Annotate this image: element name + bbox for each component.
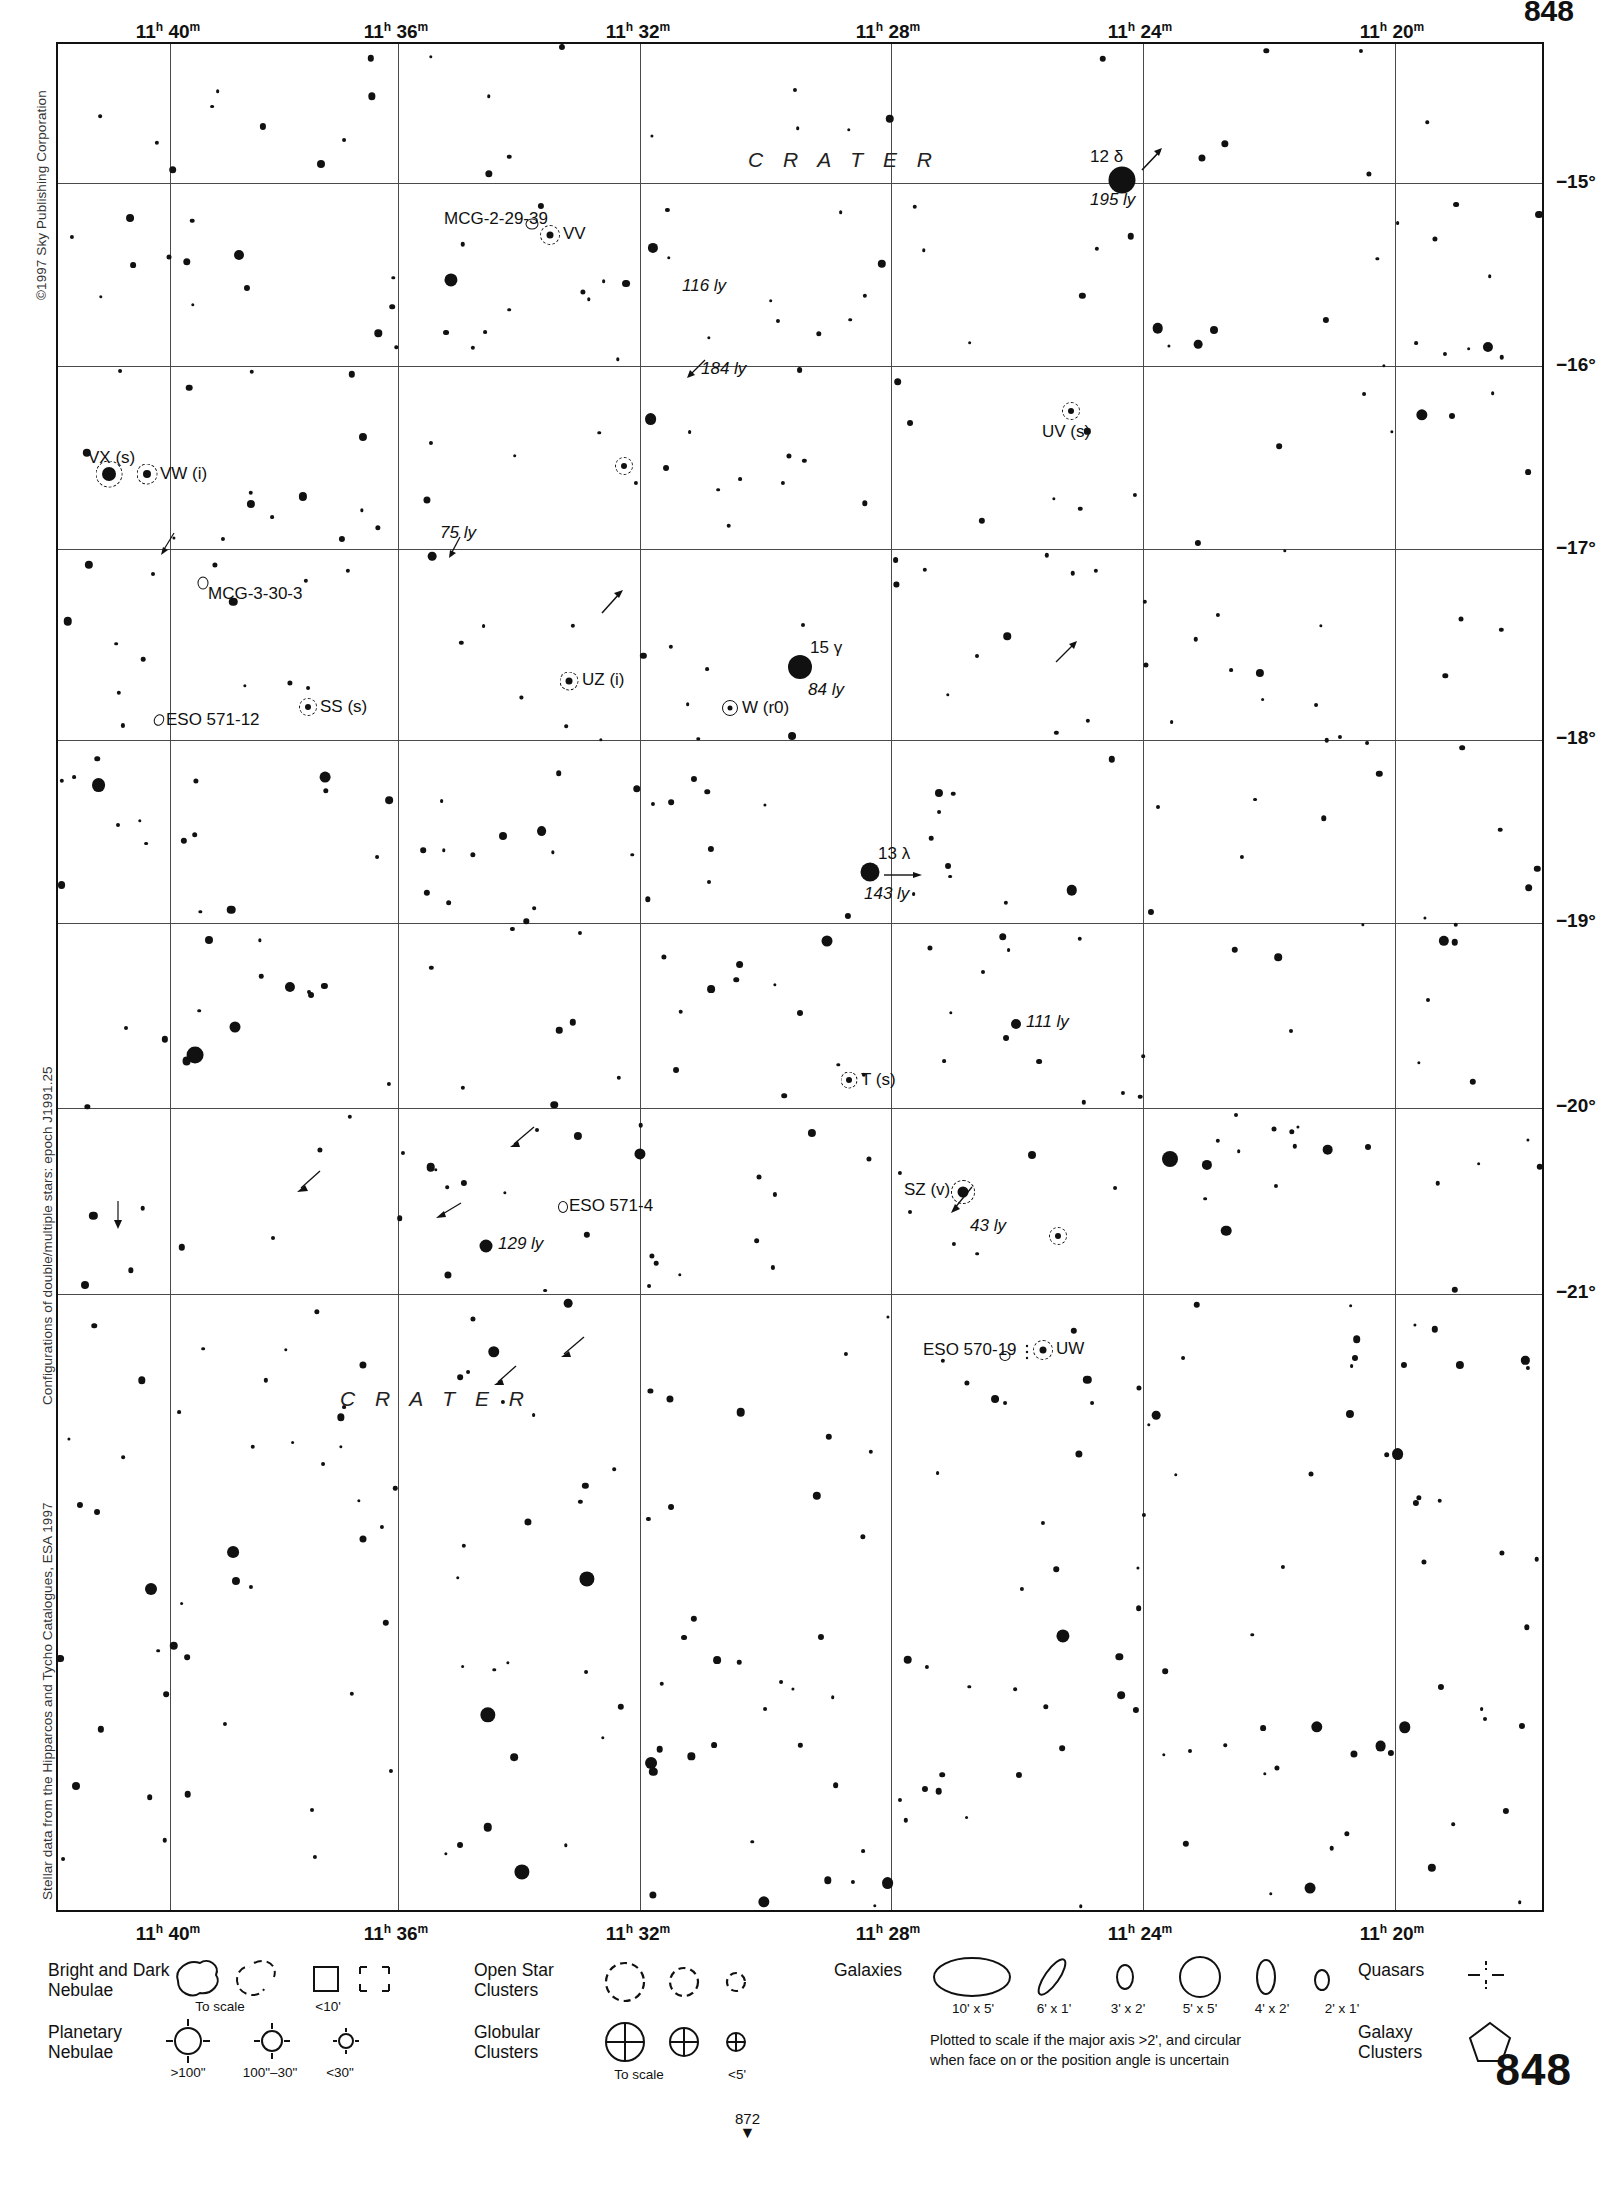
star-point (1426, 998, 1430, 1002)
star-point (556, 1027, 563, 1034)
sky-map-area[interactable]: C R A T E R C R A T E R 12 δ 195 ly MCG-… (56, 42, 1544, 1912)
star-point (124, 1026, 128, 1030)
star-point (945, 863, 951, 869)
star-point (707, 336, 710, 339)
star-point (1438, 1684, 1444, 1690)
star-unlabeled-2[interactable] (1055, 1233, 1061, 1239)
star-point (179, 1244, 185, 1250)
star-uz[interactable] (566, 678, 573, 685)
star-13-lambda[interactable] (861, 863, 880, 882)
star-t[interactable] (846, 1077, 852, 1083)
star-point (199, 910, 202, 913)
star-point (769, 299, 773, 303)
constellation-label-crater-bottom: C R A T E R (340, 1387, 531, 1411)
star-point (797, 367, 803, 373)
label-eso-571-4: ESO 571-4 (569, 1196, 653, 1216)
star-point (1297, 1126, 1300, 1129)
star-point (579, 1572, 594, 1587)
star-vx[interactable] (102, 467, 116, 481)
star-point (1133, 493, 1137, 497)
star-point (72, 1782, 80, 1790)
star-point (1390, 430, 1393, 433)
star-point (184, 1791, 191, 1798)
star-unlabeled-1[interactable] (621, 463, 627, 469)
star-111ly[interactable] (1011, 1019, 1021, 1029)
star-point (126, 214, 134, 222)
galaxy-eso-571-4[interactable] (558, 1201, 568, 1213)
star-point (141, 657, 146, 662)
star-point (582, 1483, 588, 1489)
star-point (249, 1585, 253, 1589)
star-point (446, 1185, 450, 1189)
star-point (525, 1518, 532, 1525)
star-point (385, 797, 393, 805)
star-point (181, 838, 187, 844)
star-point (867, 1156, 872, 1161)
star-point (1535, 1557, 1540, 1562)
star-point (848, 318, 852, 322)
star-point (121, 1455, 125, 1459)
galaxy-mcg-3-30-3[interactable] (198, 577, 209, 590)
star-point (877, 259, 885, 267)
constellation-label-crater-top: C R A T E R (748, 148, 939, 172)
map-legend: Bright and Dark Nebulae To scale <10' Pl… (48, 1955, 1578, 2155)
star-point (833, 1782, 839, 1788)
star-point (63, 617, 72, 626)
star-point (1276, 443, 1282, 449)
star-point (951, 791, 956, 796)
proper-motion-arrow-b (598, 587, 628, 617)
distance-129ly: 129 ly (498, 1234, 543, 1254)
star-point (1223, 1743, 1227, 1747)
star-point (348, 371, 354, 377)
star-point (1271, 1126, 1276, 1131)
star-vv[interactable] (547, 232, 554, 239)
star-point (227, 1546, 239, 1558)
galaxy-eso-571-12[interactable] (152, 712, 167, 727)
star-129ly[interactable] (480, 1240, 493, 1253)
star-point (357, 1500, 360, 1503)
star-uw[interactable] (1040, 1347, 1047, 1354)
star-point (92, 778, 106, 792)
star-point (1261, 698, 1265, 702)
star-point (1451, 1287, 1457, 1293)
star-point (397, 1216, 403, 1222)
star-point (1521, 1356, 1529, 1364)
star-point (763, 1707, 767, 1711)
star-ss[interactable] (305, 704, 311, 710)
star-vw[interactable] (143, 470, 151, 478)
star-point (1537, 1163, 1544, 1170)
star-point (1534, 865, 1540, 871)
legend-galaxy-size-3: 3' x 2' (1090, 2001, 1166, 2016)
star-point (1199, 155, 1206, 162)
star-point (707, 846, 713, 852)
star-15-gamma[interactable] (788, 655, 812, 679)
star-point (551, 851, 554, 854)
star-point (705, 667, 709, 671)
star-point (434, 1168, 437, 1171)
star-point (543, 1289, 547, 1293)
star-point (1152, 323, 1163, 334)
star-point (550, 1101, 558, 1109)
label-mcg-2-29-39: MCG-2-29-39 (444, 209, 548, 229)
gridline-ra-1140 (170, 44, 171, 1910)
star-point (894, 582, 899, 587)
gridline-dec--15 (58, 183, 1542, 184)
star-point (736, 1408, 745, 1417)
star-point (1292, 1144, 1296, 1148)
star-point (659, 1681, 664, 1686)
gridline-ra-1132 (640, 44, 641, 1910)
label-w: W (r0) (742, 698, 789, 718)
star-w[interactable] (728, 706, 733, 711)
star-point (227, 905, 236, 914)
star-point (796, 126, 800, 130)
ra-tick-bottom-1120: 11h 20m (1360, 1922, 1425, 1945)
star-point (645, 896, 650, 901)
star-point (965, 1816, 969, 1820)
star-point (1054, 730, 1058, 734)
star-uv[interactable] (1068, 408, 1074, 414)
star-point (487, 95, 491, 99)
proper-motion-arrow-f (506, 1124, 538, 1150)
star-point (485, 170, 492, 177)
star-point (845, 913, 851, 919)
star-point (1028, 1151, 1036, 1159)
